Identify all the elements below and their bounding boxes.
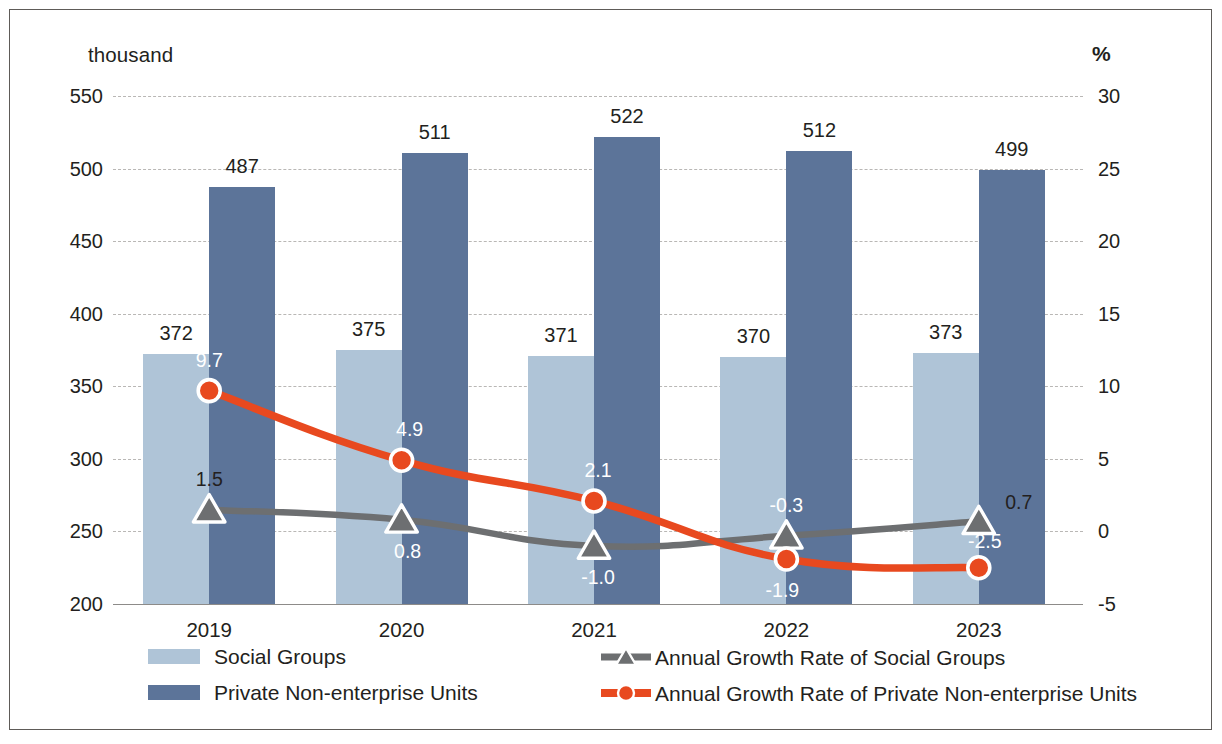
legend-label: Private Non-enterprise Units: [214, 682, 478, 703]
legend-item-3[interactable]: Annual Growth Rate of Social Groups: [600, 646, 1005, 668]
legend-marker-triangle-icon: [600, 646, 652, 668]
legend-label: Annual Growth Rate of Social Groups: [655, 647, 1005, 668]
legend-marker-circle-icon: [600, 682, 652, 704]
legend-item-4[interactable]: Annual Growth Rate of Private Non-enterp…: [600, 682, 1137, 704]
legend-label: Annual Growth Rate of Private Non-enterp…: [655, 683, 1137, 704]
chart-legend: Social GroupsPrivate Non-enterprise Unit…: [0, 0, 1222, 744]
legend-label: Social Groups: [214, 646, 346, 667]
legend-item-2[interactable]: Private Non-enterprise Units: [148, 682, 478, 703]
legend-swatch-private-nonenterprise: [148, 685, 200, 700]
legend-swatch-social-groups: [148, 649, 200, 664]
legend-item-1[interactable]: Social Groups: [148, 646, 346, 667]
